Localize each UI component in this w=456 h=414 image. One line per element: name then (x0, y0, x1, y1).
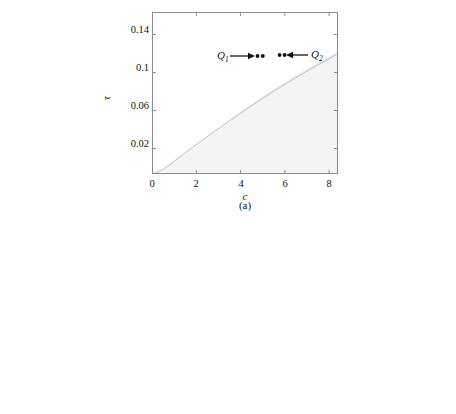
q1-base: Q (217, 49, 225, 61)
panel-b: 1.4 1.2 1.0 0.8 0.6 y1(t) (0, 208, 228, 414)
panel-a-xtick-0: 0 (149, 179, 154, 190)
panel-a-annotation-q2-label: Q2 (311, 48, 323, 63)
panel-a-annotation-q1-marker (230, 53, 265, 59)
panel-a-annotation-q2-marker (278, 52, 308, 58)
panel-a-plot-area (152, 12, 338, 174)
q2-sub: 2 (319, 54, 323, 63)
panel-a-xtick-3: 6 (282, 179, 287, 190)
q1-sub: 1 (225, 55, 229, 64)
panel-a-ytick-0: 0.14 (117, 25, 149, 36)
panel-a-svg (152, 12, 338, 174)
panel-c: 2.0 1.5 1.0 0.5 y1(t) (228, 208, 456, 414)
panel-a-ytick-1: 0.1 (117, 63, 149, 74)
panel-a-ytick-2: 0.06 (117, 101, 149, 112)
q2-base: Q (311, 48, 319, 60)
panel-a-ylabel: τ (100, 78, 112, 118)
panel-a-xtick-4: 8 (326, 179, 331, 190)
panel-a-xtick-1: 2 (193, 179, 198, 190)
panel-a-annotation-q1-label: Q1 (217, 49, 229, 64)
panel-a-ytick-3: 0.02 (117, 139, 149, 150)
panel-a: 0.14 0.1 0.06 0.02 τ (0, 0, 456, 208)
figure-root: 0.14 0.1 0.06 0.02 τ (0, 0, 456, 414)
panel-a-xtick-2: 4 (238, 179, 243, 190)
